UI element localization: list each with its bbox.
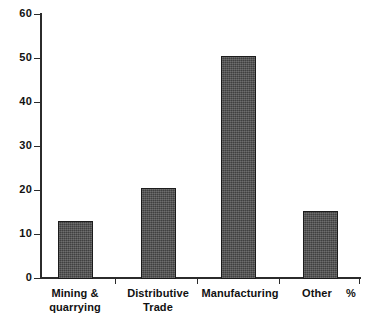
- x-axis-tick: [115, 279, 116, 284]
- y-axis-label-wrap: 50: [0, 52, 32, 63]
- y-axis-tick-label-30: 30: [2, 140, 32, 151]
- category-label-line1: Mining &: [51, 287, 98, 299]
- y-axis-tick: [34, 14, 40, 15]
- y-axis-label-wrap: 60: [0, 8, 32, 19]
- x-axis-category-label-0: Mining & quarrying: [33, 286, 117, 314]
- bar-distributive-trade: [141, 188, 176, 279]
- y-axis-line: [40, 13, 42, 279]
- x-axis-category-label-2: Manufacturing: [194, 286, 286, 300]
- bar-mining-quarrying: [58, 221, 93, 279]
- y-axis-label-wrap: 10: [0, 228, 32, 239]
- y-axis-tick: [34, 278, 40, 279]
- category-label-line1: Manufacturing: [201, 287, 278, 299]
- x-axis-tick: [359, 279, 360, 284]
- y-axis-label-wrap: 40: [0, 96, 32, 107]
- y-axis-tick: [34, 146, 40, 147]
- x-axis-tick: [279, 279, 280, 284]
- y-axis-label-wrap: 30: [0, 140, 32, 151]
- unit-percent-label: %: [346, 286, 356, 300]
- y-axis-tick-label-40: 40: [2, 96, 32, 107]
- category-label-line2: quarrying: [33, 300, 117, 314]
- bar-manufacturing: [221, 56, 256, 279]
- category-label-line2: Trade: [116, 300, 200, 314]
- y-axis-tick-label-0: 0: [2, 272, 32, 283]
- bar-chart: 60 50 40 30 20 10 0: [0, 0, 372, 327]
- y-axis-tick-label-60: 60: [2, 8, 32, 19]
- y-axis-tick: [34, 234, 40, 235]
- y-axis-tick-label-10: 10: [2, 228, 32, 239]
- y-axis-tick-label-20: 20: [2, 184, 32, 195]
- bar-other: [303, 211, 338, 279]
- plot-area: 60 50 40 30 20 10 0: [0, 0, 372, 327]
- x-axis-category-label-1: Distributive Trade: [116, 286, 200, 314]
- category-label-line1: Other: [302, 287, 332, 299]
- category-label-line1: Distributive: [127, 287, 189, 299]
- y-axis-tick-label-50: 50: [2, 52, 32, 63]
- y-axis-label-wrap: 0: [0, 272, 32, 283]
- y-axis-tick: [34, 58, 40, 59]
- y-axis-label-wrap: 20: [0, 184, 32, 195]
- x-axis-tick: [197, 279, 198, 284]
- y-axis-tick: [34, 102, 40, 103]
- y-axis-tick: [34, 190, 40, 191]
- x-axis-category-label-3: Other: [288, 286, 346, 300]
